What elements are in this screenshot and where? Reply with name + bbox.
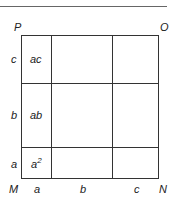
cell-label-ac: ac: [30, 53, 42, 65]
corner-label-m: M: [9, 183, 19, 195]
bottom-label-c: c: [134, 183, 140, 195]
outer-square: [22, 36, 159, 179]
bottom-label-a: a: [34, 183, 40, 195]
diagram-canvas: P O M N a b c c b a ac ab a2: [0, 0, 173, 202]
left-label-c: c: [11, 53, 17, 65]
left-label-b: b: [11, 109, 17, 121]
corner-label-n: N: [159, 183, 167, 195]
corner-label-p: P: [14, 21, 22, 33]
cell-label-a-squared: a2: [31, 156, 42, 170]
corner-label-o: O: [160, 21, 169, 33]
bottom-label-b: b: [80, 183, 86, 195]
left-label-a: a: [11, 158, 17, 170]
cell-label-ab: ab: [30, 109, 42, 121]
